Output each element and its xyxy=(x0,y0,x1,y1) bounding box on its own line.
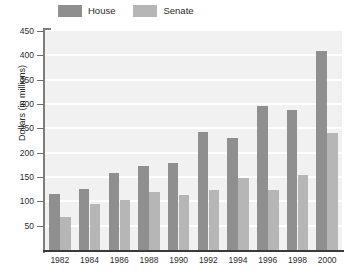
bar-senate-1990 xyxy=(179,195,190,250)
y-axis-line xyxy=(43,28,45,253)
y-tick-label: 450 xyxy=(4,27,34,36)
y-tick-label: 250 xyxy=(4,124,34,133)
bar-senate-1982 xyxy=(60,217,71,250)
x-tick-label-1986: 1986 xyxy=(104,256,134,265)
x-tick-label-1994: 1994 xyxy=(223,256,253,265)
x-tick-label-1984: 1984 xyxy=(75,256,105,265)
bar-house-1988 xyxy=(138,166,149,250)
legend-label-house: House xyxy=(88,6,115,16)
y-tick-mark xyxy=(37,201,44,202)
y-axis-top-cap xyxy=(43,28,51,30)
plot-area xyxy=(45,31,342,250)
y-tick-label: 300 xyxy=(4,100,34,109)
gridline xyxy=(45,127,342,129)
y-tick-label: 350 xyxy=(4,76,34,85)
x-tick-label-1990: 1990 xyxy=(164,256,194,265)
bar-house-2000 xyxy=(316,51,327,250)
bar-chart-figure: House Senate Dollars (in millions) 45040… xyxy=(0,0,348,275)
y-tick-label: 100 xyxy=(4,197,34,206)
legend-entry-house: House xyxy=(58,5,115,17)
bar-senate-1988 xyxy=(149,192,160,250)
y-tick-label: 150 xyxy=(4,173,34,182)
bar-house-1984 xyxy=(79,189,90,250)
x-tick-label-1996: 1996 xyxy=(253,256,283,265)
bar-senate-1986 xyxy=(120,200,131,250)
y-tick-mark xyxy=(37,177,44,178)
bar-house-1992 xyxy=(198,132,209,250)
y-tick-mark xyxy=(37,153,44,154)
y-tick-label: 200 xyxy=(4,149,34,158)
y-tick-mark xyxy=(37,80,44,81)
gridline xyxy=(45,54,342,56)
bar-house-1990 xyxy=(168,163,179,250)
bar-house-1986 xyxy=(109,173,120,250)
y-tick-mark xyxy=(37,31,44,32)
legend-swatch-senate xyxy=(133,5,157,17)
chart-legend: House Senate xyxy=(58,3,194,19)
x-tick-label-1998: 1998 xyxy=(283,256,313,265)
x-tick-label-1992: 1992 xyxy=(194,256,224,265)
legend-swatch-house xyxy=(58,5,82,17)
bar-house-1982 xyxy=(49,194,60,250)
legend-label-senate: Senate xyxy=(163,6,193,16)
y-tick-mark xyxy=(37,104,44,105)
x-tick-label-1988: 1988 xyxy=(134,256,164,265)
legend-entry-senate: Senate xyxy=(133,5,193,17)
y-tick-mark xyxy=(37,128,44,129)
bar-senate-1998 xyxy=(298,175,309,250)
bar-house-1994 xyxy=(227,138,238,250)
gridline xyxy=(45,103,342,105)
y-tick-label: 400 xyxy=(4,51,34,60)
bar-senate-1994 xyxy=(238,178,249,250)
gridline xyxy=(45,152,342,154)
y-tick-label: 50 xyxy=(4,222,34,231)
bar-senate-2000 xyxy=(327,133,338,250)
x-tick-label-2000: 2000 xyxy=(312,256,342,265)
bar-senate-1992 xyxy=(209,190,220,250)
bar-house-1998 xyxy=(287,110,298,250)
gridline xyxy=(45,79,342,81)
x-tick-label-1982: 1982 xyxy=(45,256,75,265)
x-axis-line xyxy=(43,250,344,252)
bar-senate-1984 xyxy=(90,204,101,250)
y-tick-mark xyxy=(37,55,44,56)
bar-house-1996 xyxy=(257,106,268,250)
bar-senate-1996 xyxy=(268,190,279,250)
y-tick-mark xyxy=(37,226,44,227)
